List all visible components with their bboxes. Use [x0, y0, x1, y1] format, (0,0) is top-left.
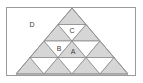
geometric-figure: D C B A: [0, 0, 143, 83]
label-c: C: [69, 27, 74, 34]
label-d: D: [29, 21, 34, 28]
label-b: B: [57, 45, 62, 52]
triangle-subdivision-svg: D C B A: [0, 0, 143, 83]
label-a: A: [71, 48, 76, 55]
